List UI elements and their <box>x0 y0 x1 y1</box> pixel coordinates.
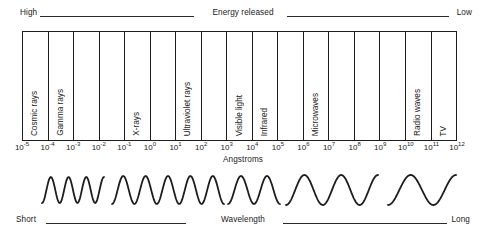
spectrum-band-label: Visible light <box>235 95 245 136</box>
tick-mantissa: 10 <box>349 143 358 152</box>
wave-segment-1 <box>42 177 104 203</box>
tick-mantissa: 10 <box>117 143 126 152</box>
tick-exponent: 11 <box>433 141 439 147</box>
spectrum-band-empty <box>202 32 228 140</box>
wavelength-axis-left-label: Short <box>16 215 36 224</box>
spectrum-band-x-rays: X-rays <box>125 32 151 140</box>
spectrum-band-empty <box>100 32 126 140</box>
energy-axis-right-label: Low <box>457 8 472 17</box>
spectrum-band-empty <box>355 32 381 140</box>
wavelength-axis-caption: Wavelength <box>217 215 269 224</box>
tick-exponent: 10 <box>407 141 414 147</box>
tick-mantissa: 10 <box>246 143 255 152</box>
tick-mantissa: 10 <box>92 143 101 152</box>
energy-axis-line-left <box>40 16 194 17</box>
tick-mantissa: 10 <box>323 143 332 152</box>
wavelength-axis-line-left <box>46 223 186 224</box>
axis-tick-label: 10-1 <box>117 143 131 152</box>
tick-exponent: 2 <box>204 141 207 147</box>
wave-segment-4 <box>286 175 378 205</box>
axis-tick-label: 107 <box>323 143 335 152</box>
wave-path-group <box>42 175 456 205</box>
spectrum-band-label: Gamma rays <box>56 89 66 136</box>
tick-exponent: 1 <box>178 141 181 147</box>
tick-exponent: -2 <box>101 141 106 147</box>
tick-exponent: 8 <box>357 141 360 147</box>
tick-mantissa: 10 <box>398 143 407 152</box>
tick-mantissa: 10 <box>169 143 178 152</box>
tick-exponent: 5 <box>281 141 284 147</box>
wave-segment-3 <box>228 176 280 204</box>
spectrum-band-label: Cosmic rays <box>30 91 40 136</box>
axis-tick-label: 100 <box>144 143 156 152</box>
axis-tick-label: 10-4 <box>40 143 54 152</box>
spectrum-band-label: TV <box>439 126 449 136</box>
tick-exponent: 3 <box>229 141 232 147</box>
axis-tick-label: 101 <box>169 143 181 152</box>
tick-exponent: -3 <box>75 141 80 147</box>
spectrum-band-label: Microwaves <box>311 93 321 136</box>
tick-mantissa: 10 <box>40 143 49 152</box>
axis-tick-label: 102 <box>195 143 207 152</box>
wave-segment-2 <box>112 176 224 204</box>
tick-exponent: 9 <box>383 141 386 147</box>
spectrum-band-gamma-rays: Gamma rays <box>49 32 75 140</box>
axis-tick-label: 1011 <box>424 143 439 152</box>
axis-tick-label: 108 <box>349 143 361 152</box>
axis-tick-label: 109 <box>374 143 386 152</box>
spectrum-band-empty <box>380 32 406 140</box>
wavelength-axis-line-right <box>283 223 447 224</box>
wave-segment-5 <box>388 175 456 205</box>
tick-mantissa: 10 <box>272 143 281 152</box>
tick-mantissa: 10 <box>15 143 24 152</box>
tick-mantissa: 10 <box>144 143 153 152</box>
tick-exponent: 7 <box>332 141 335 147</box>
wavelength-axis-right-label: Long <box>451 215 470 224</box>
tick-mantissa: 10 <box>66 143 75 152</box>
axis-tick-label: 10-3 <box>66 143 80 152</box>
tick-mantissa: 10 <box>449 143 458 152</box>
spectrum-band-label: Radio waves <box>413 89 423 136</box>
axis-tick-label: 1010 <box>398 143 414 152</box>
spectrum-band-container: Cosmic raysGamma raysX-raysUltraviolet r… <box>22 31 457 141</box>
spectrum-band-empty <box>151 32 177 140</box>
axis-tick-row: 10-510-410-310-210-110010110210310410510… <box>22 143 457 155</box>
energy-axis-line-right <box>287 16 449 17</box>
tick-exponent: 6 <box>306 141 309 147</box>
spectrum-band-empty <box>278 32 304 140</box>
tick-exponent: -5 <box>24 141 29 147</box>
tick-exponent: -4 <box>49 141 54 147</box>
energy-axis-caption: Energy released <box>208 8 277 17</box>
spectrum-band-tv: TV <box>432 32 457 140</box>
spectrum-band-microwaves: Microwaves <box>304 32 330 140</box>
wavelength-illustration <box>0 168 486 210</box>
spectrum-band-label: Infrared <box>260 108 270 136</box>
axis-tick-label: 105 <box>272 143 284 152</box>
wavelength-axis: Short Wavelength Long <box>0 213 486 229</box>
axis-tick-label: 1012 <box>449 143 465 152</box>
tick-mantissa: 10 <box>297 143 306 152</box>
tick-mantissa: 10 <box>374 143 383 152</box>
spectrum-band-label: X-rays <box>132 112 142 136</box>
energy-axis-left-label: High <box>20 8 37 17</box>
spectrum-band-empty <box>74 32 100 140</box>
axis-unit-label: Angstroms <box>223 155 263 164</box>
spectrum-band-label: Ultraviolet rays <box>183 82 193 136</box>
spectrum-band-radio-waves: Radio waves <box>406 32 432 140</box>
spectrum-band-empty <box>329 32 355 140</box>
spectrum-band-infrared: Infrared <box>253 32 279 140</box>
axis-tick-label: 106 <box>297 143 309 152</box>
tick-mantissa: 10 <box>195 143 204 152</box>
tick-exponent: 12 <box>458 141 465 147</box>
spectrum-band-ultraviolet-rays: Ultraviolet rays <box>176 32 202 140</box>
axis-tick-label: 10-2 <box>92 143 106 152</box>
axis-tick-label: 10-5 <box>15 143 29 152</box>
spectrum-band-visible-light: Visible light <box>227 32 253 140</box>
tick-exponent: 0 <box>153 141 156 147</box>
tick-mantissa: 10 <box>221 143 230 152</box>
axis-tick-label: 104 <box>246 143 258 152</box>
energy-axis: High Energy released Low <box>0 6 486 22</box>
tick-exponent: 4 <box>255 141 258 147</box>
tick-exponent: -1 <box>126 141 131 147</box>
spectrum-band-cosmic-rays: Cosmic rays <box>23 32 49 140</box>
